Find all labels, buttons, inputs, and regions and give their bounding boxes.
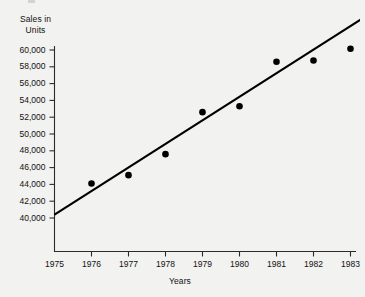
trend-line <box>55 13 361 215</box>
data-point-marker <box>310 57 317 64</box>
x-axis-tick-label: 1981 <box>257 259 297 269</box>
y-axis-tick-label: 60,000 <box>0 45 46 55</box>
data-point-marker <box>125 172 132 179</box>
y-axis-tick-label: 54,000 <box>0 95 46 105</box>
x-axis-tick-label: 1983 <box>331 259 365 269</box>
data-point-marker <box>162 151 169 158</box>
y-axis-tick-label: 46,000 <box>0 162 46 172</box>
data-point-marker <box>236 103 243 110</box>
y-axis-tick-label: 58,000 <box>0 61 46 71</box>
x-axis-tick-label: 1982 <box>294 259 334 269</box>
y-axis-tick-label: 40,000 <box>0 213 46 223</box>
data-point-marker <box>347 45 354 52</box>
x-axis-tick-label: 1977 <box>109 259 149 269</box>
y-axis-tick-label: 56,000 <box>0 78 46 88</box>
x-axis-tick-label: 1975 <box>35 259 75 269</box>
axes-group <box>55 46 357 252</box>
data-point-marker <box>273 58 280 65</box>
x-axis-ticks <box>92 252 351 257</box>
y-axis-tick-label: 44,000 <box>0 179 46 189</box>
y-axis-tick-label: 42,000 <box>0 196 46 206</box>
y-axis-tick-label: 50,000 <box>0 129 46 139</box>
x-axis-tick-label: 1980 <box>220 259 260 269</box>
data-point-marker <box>88 180 95 187</box>
data-points <box>88 45 354 186</box>
y-axis-ticks <box>50 50 55 218</box>
x-axis-tick-label: 1976 <box>72 259 112 269</box>
x-axis-tick-label: 1978 <box>146 259 186 269</box>
y-axis-tick-label: 48,000 <box>0 145 46 155</box>
x-axis-tick-label: 1979 <box>183 259 223 269</box>
data-point-marker <box>199 109 206 116</box>
y-axis-tick-label: 52,000 <box>0 112 46 122</box>
trend-line-segment <box>55 13 361 215</box>
